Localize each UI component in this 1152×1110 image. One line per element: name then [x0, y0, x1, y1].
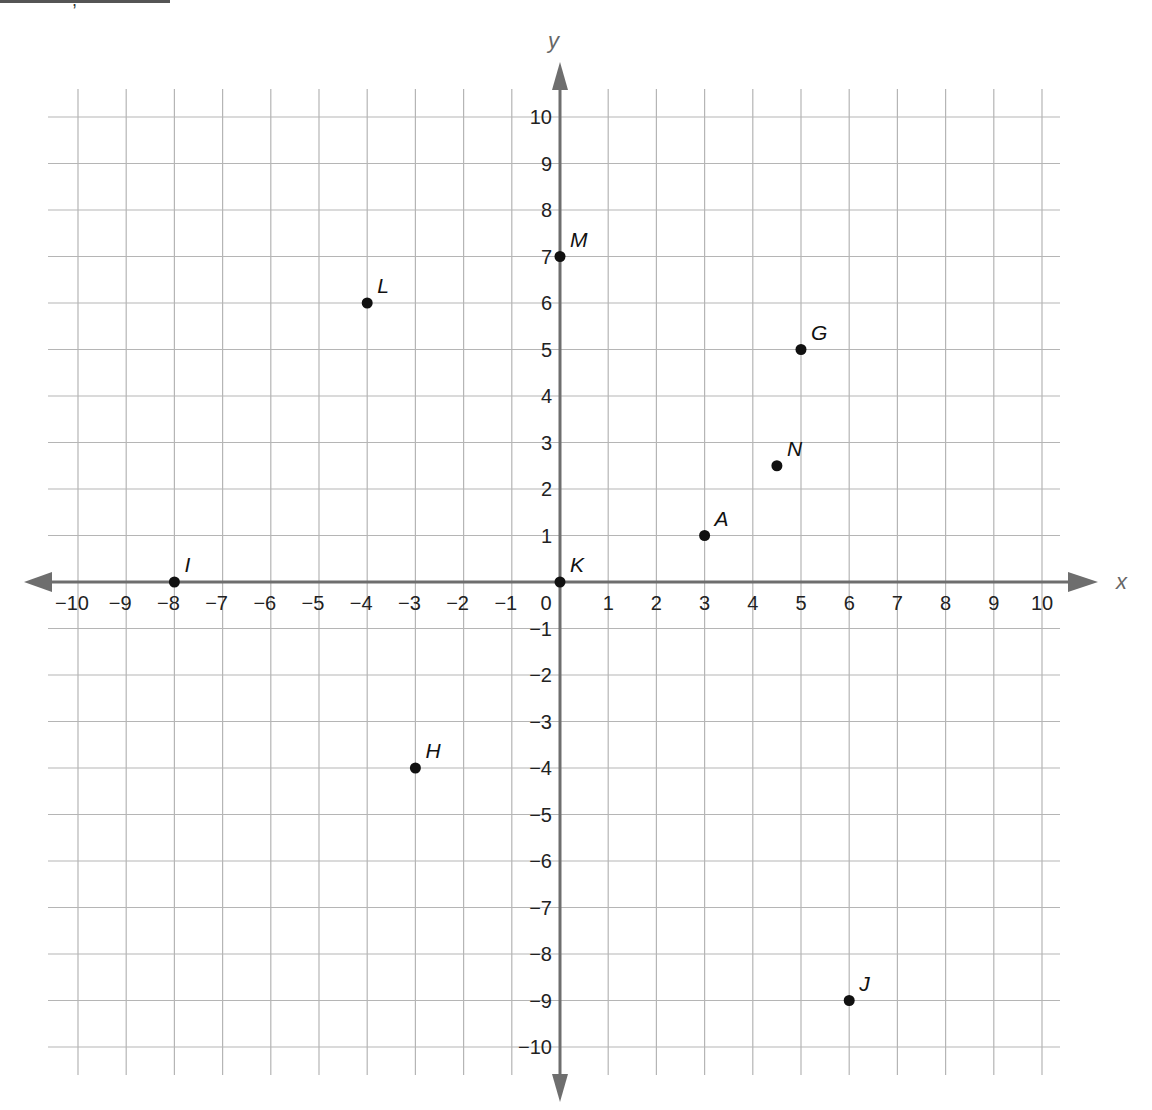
point-dot-icon [555, 577, 566, 588]
y-tick-label: −10 [518, 1036, 552, 1058]
y-tick-label: −8 [529, 943, 552, 965]
x-axis-left-arrow-icon [24, 572, 52, 592]
y-tick-label: −9 [529, 990, 552, 1012]
x-tick-label: 3 [699, 592, 710, 614]
y-tick-label: −4 [529, 757, 552, 779]
y-tick-label: 8 [541, 199, 552, 221]
point-dot-icon [699, 530, 710, 541]
y-tick-label: −6 [529, 850, 552, 872]
x-tick-label: −1 [494, 592, 517, 614]
y-axis-label: y [546, 28, 561, 53]
point-label: J [858, 972, 870, 995]
y-tick-label: 4 [541, 385, 552, 407]
point-label: L [377, 274, 389, 297]
x-tick-label: 10 [1031, 592, 1053, 614]
y-tick-label: −3 [529, 711, 552, 733]
y-tick-label: −2 [529, 664, 552, 686]
y-axis-up-arrow-icon [552, 62, 568, 90]
x-tick-label: −2 [446, 592, 469, 614]
x-tick-label: −5 [302, 592, 325, 614]
y-tick-label: 3 [541, 432, 552, 454]
y-tick-label: −7 [529, 897, 552, 919]
x-tick-label: −6 [253, 592, 276, 614]
x-tick-label: −9 [109, 592, 132, 614]
point-label: N [787, 437, 803, 460]
x-tick-label: −7 [205, 592, 228, 614]
y-tick-label: 6 [541, 292, 552, 314]
x-axis-label: x [1115, 569, 1128, 594]
point-dot-icon [362, 298, 373, 309]
plotted-points: AGHIJKLMN [169, 228, 870, 1007]
point-dot-icon [410, 763, 421, 774]
point-dot-icon [555, 251, 566, 262]
y-tick-label: −5 [529, 804, 552, 826]
x-tick-label: 0 [540, 592, 551, 614]
y-tick-label: 5 [541, 339, 552, 361]
y-tick-label: 10 [530, 106, 552, 128]
x-tick-label: 8 [940, 592, 951, 614]
point-dot-icon [844, 995, 855, 1006]
point-label: K [570, 553, 585, 576]
point-label: G [811, 321, 827, 344]
point-label: A [713, 507, 729, 530]
y-tick-label: 1 [541, 525, 552, 547]
x-tick-label: −3 [398, 592, 421, 614]
x-tick-label: −4 [350, 592, 373, 614]
x-tick-label: 4 [747, 592, 758, 614]
point-label: I [184, 553, 190, 576]
y-tick-label: −1 [529, 618, 552, 640]
coordinate-plane: xy −10−9−8−7−6−5−4−3−2−1012345678910−10−… [0, 0, 1152, 1110]
x-tick-label: 9 [988, 592, 999, 614]
point-dot-icon [771, 460, 782, 471]
y-axis-down-arrow-icon [552, 1074, 568, 1102]
point-label: H [425, 739, 441, 762]
point-dot-icon [169, 577, 180, 588]
x-tick-label: 1 [603, 592, 614, 614]
x-tick-label: 6 [844, 592, 855, 614]
x-tick-label: 5 [795, 592, 806, 614]
x-tick-label: 2 [651, 592, 662, 614]
y-tick-label: 9 [541, 153, 552, 175]
point-label: M [570, 228, 588, 251]
y-tick-label: 7 [541, 246, 552, 268]
x-tick-label: −8 [157, 592, 180, 614]
point-dot-icon [796, 344, 807, 355]
x-axis-right-arrow-icon [1068, 572, 1098, 592]
x-tick-label: 7 [892, 592, 903, 614]
x-tick-label: −10 [55, 592, 89, 614]
y-tick-label: 2 [541, 478, 552, 500]
